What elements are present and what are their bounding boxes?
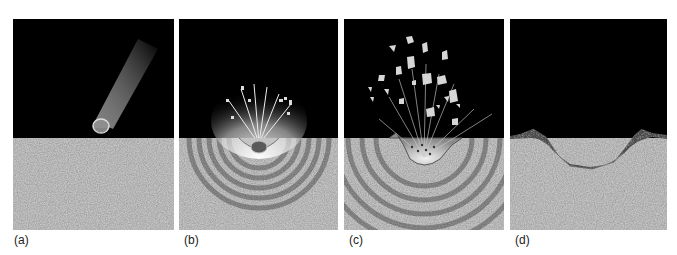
panel-b-impact — [179, 19, 338, 230]
meteorite — [93, 119, 109, 133]
panel-c-excavation — [344, 19, 504, 230]
panel-b-illustration — [179, 19, 338, 230]
panel-d-final-crater — [510, 19, 667, 230]
panel-label-b: (b) — [184, 233, 199, 247]
panel-c-illustration — [344, 19, 504, 230]
panel-a-illustration — [13, 19, 174, 230]
panel-d-illustration — [510, 19, 667, 230]
ground-texture — [13, 138, 174, 230]
panel-label-a: (a) — [14, 233, 29, 247]
panel-label-c: (c) — [349, 233, 363, 247]
panel-a-approach — [13, 19, 174, 230]
ground-texture — [510, 138, 667, 230]
panel-label-d: (d) — [515, 233, 530, 247]
meteorite — [251, 141, 267, 153]
